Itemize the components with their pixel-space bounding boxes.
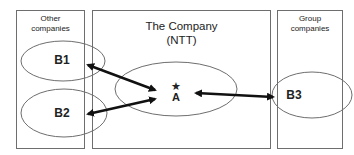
node-b3-label: B3 [282, 88, 306, 102]
company-title-line2: (NTT) [92, 33, 271, 47]
other-companies-title-line2: companies [16, 24, 85, 34]
other-companies-title-line1: Other [16, 14, 85, 24]
node-b2-label: B2 [50, 106, 74, 120]
node-a-label: A [169, 91, 183, 103]
node-b1-label: B1 [50, 53, 74, 67]
group-companies-title-line2: companies [277, 24, 343, 34]
group-companies-title-line1: Group [277, 14, 343, 24]
arrow-b1-a [88, 65, 155, 90]
company-title-line1: The Company [92, 19, 271, 33]
group-companies-title: Group companies [277, 14, 343, 34]
other-companies-title: Other companies [16, 14, 85, 34]
company-title: The Company (NTT) [92, 19, 271, 47]
